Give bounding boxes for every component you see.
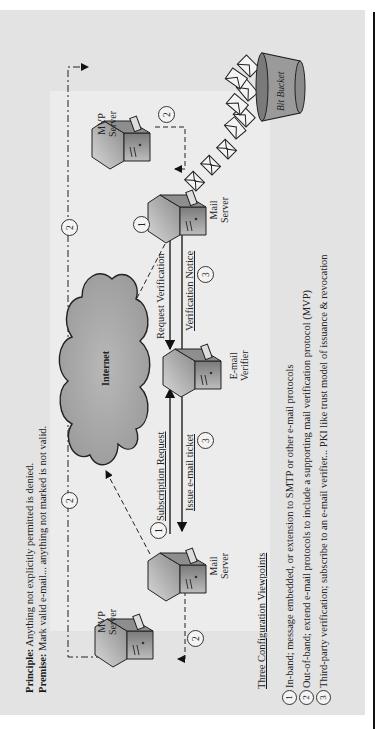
mail-server-left-label: Mail Server — [208, 553, 230, 579]
mvp-server-left-label: MVP Server — [96, 609, 118, 635]
label-line: Server — [107, 111, 118, 137]
label-line: MVP — [96, 111, 107, 137]
label-line: MVP — [96, 609, 107, 635]
legend-item-2: 2 Out-of-band; extend e-mail protocols t… — [298, 290, 314, 705]
verification-notice-label: Verification Notice — [184, 251, 195, 331]
marker-2-top-left: 2 — [61, 492, 78, 509]
premise-label: Premise: — [37, 654, 48, 693]
principle-line: Principle: Anything not explicitly permi… — [24, 463, 36, 693]
label-line: Verifier — [239, 350, 250, 381]
mvp-server-right-label: MVP Server — [96, 111, 118, 137]
label-line: Server — [219, 553, 230, 579]
marker-1-right: 1 — [133, 216, 150, 233]
legend-item-1: 1 In-band; message embedded, or extensio… — [281, 364, 297, 705]
premise-line: Premise: Mark valid e-mail... anything n… — [37, 426, 49, 693]
legend-text: Out-of-band; extend e-mail protocols to … — [301, 290, 312, 688]
envelope-stream — [185, 55, 260, 191]
marker-2-top-right: 2 — [61, 219, 78, 236]
subscription-request-label: Subscription Request — [155, 431, 166, 521]
principle-label: Principle: — [24, 649, 35, 693]
page: Principle: Anything not explicitly permi… — [0, 0, 377, 729]
legend-title: Three Configuration Viewpoints — [256, 553, 268, 689]
legend-number: 3 — [316, 690, 331, 705]
principle-text: Anything not explicitly permitted is den… — [24, 463, 35, 647]
legend-item-3: 3 Third-party verification; subscribe to… — [315, 254, 331, 705]
marker-3-left: 3 — [197, 432, 214, 449]
marker-2-left-mvp: 2 — [187, 630, 204, 647]
mail-server-right-label: Mail Server — [208, 197, 230, 223]
mail-server-left-icon — [148, 548, 206, 601]
rotated-diagram-canvas: Principle: Anything not explicitly permi… — [0, 0, 377, 729]
premise-text: Mark valid e-mail... anything not marked… — [37, 426, 48, 651]
label-line: Server — [107, 609, 118, 635]
email-verifier-icon — [163, 344, 221, 397]
legend-number: 1 — [282, 690, 297, 705]
bit-bucket-label: Bit Bucket — [276, 72, 287, 111]
email-verifier-label: E-mail Verifier — [228, 350, 250, 381]
legend-text: Third-party verification; subscribe to a… — [318, 254, 329, 688]
label-line: Mail — [208, 197, 219, 223]
marker-1-left: 1 — [150, 522, 167, 539]
legend-text: In-band; message embedded, or extension … — [284, 364, 295, 688]
mail-server-right-icon — [148, 190, 206, 243]
legend-number: 2 — [299, 690, 314, 705]
internet-label: Internet — [100, 351, 111, 386]
request-verification-label: Request Verification — [155, 253, 166, 339]
marker-2-right-mvp: 2 — [158, 106, 175, 123]
marker-3-right: 3 — [197, 266, 214, 283]
label-line: E-mail — [228, 350, 239, 381]
label-line: Server — [219, 197, 230, 223]
label-line: Mail — [208, 553, 219, 579]
issue-ticket-label: Issue e-mail ticket — [184, 434, 195, 511]
